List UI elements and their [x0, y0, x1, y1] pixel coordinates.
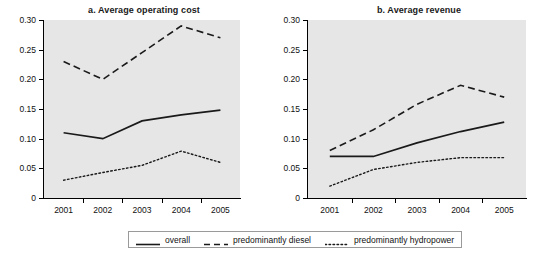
series-layer-a [0, 0, 250, 222]
series-line [330, 158, 504, 186]
legend-label: predominantly hydropower [354, 235, 454, 245]
legend-swatch-dotted-icon [325, 235, 349, 244]
series-line [330, 122, 504, 156]
series-line [64, 110, 221, 138]
chart-legend: overallpredominantly dieselpredominantly… [128, 231, 462, 248]
legend-item: predominantly hydropower [325, 235, 454, 245]
figure-root: a. Average operating cost 00.050.100.150… [0, 0, 534, 259]
legend-label: predominantly diesel [233, 235, 311, 245]
legend-label: overall [165, 235, 190, 245]
legend-item: predominantly diesel [204, 235, 311, 245]
series-layer-b [258, 0, 534, 222]
legend-swatch-dashed-icon [204, 235, 228, 244]
legend-swatch-solid-icon [136, 235, 160, 244]
series-line [64, 151, 221, 180]
series-line [330, 85, 504, 150]
series-line [64, 26, 221, 79]
chart-panel-b: b. Average revenue 00.050.100.150.200.25… [258, 0, 534, 222]
legend-item: overall [136, 235, 190, 245]
chart-panel-a: a. Average operating cost 00.050.100.150… [0, 0, 250, 222]
